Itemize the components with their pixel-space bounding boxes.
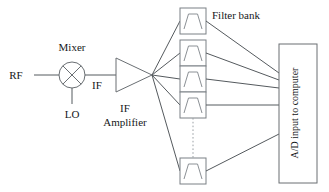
filter-block-5 — [180, 158, 206, 184]
block-diagram: RF Mixer LO IF IF Amplifier Filter bank … — [0, 0, 329, 192]
if-amplifier-triangle — [116, 58, 152, 92]
output-wire-5 — [206, 134, 279, 171]
filter-block-3 — [180, 66, 206, 92]
filter-block-4 — [180, 92, 206, 118]
if-label: IF — [92, 79, 102, 91]
filter-box-2 — [180, 40, 206, 66]
filter-block-1 — [180, 8, 206, 34]
fanout-wire-3 — [152, 75, 180, 79]
filter-bank-label: Filter bank — [212, 9, 260, 21]
mixer-symbol — [59, 62, 85, 88]
filter-box-3 — [180, 66, 206, 92]
if-amplifier-label-line2: Amplifier — [103, 116, 147, 128]
filter-box-4 — [180, 92, 206, 118]
fanout-wire-1 — [152, 21, 180, 75]
fanout-wire-2 — [152, 53, 180, 75]
filter-block-2 — [180, 40, 206, 66]
lo-label: LO — [65, 108, 80, 120]
output-wire-1 — [206, 21, 279, 73]
output-wire-2 — [206, 53, 279, 80]
mixer-label: Mixer — [59, 41, 86, 53]
filter-box-5 — [180, 158, 206, 184]
if-amplifier-label-line1: IF — [120, 102, 130, 114]
filter-output-wires — [206, 21, 279, 171]
amplifier-fanout-wires — [152, 21, 180, 171]
output-wire-3 — [206, 79, 279, 88]
rf-label: RF — [9, 69, 22, 81]
figure-canvas: RF Mixer LO IF IF Amplifier Filter bank … — [0, 0, 329, 192]
ad-input-label: A/D input to computer — [289, 67, 300, 158]
filter-box-1 — [180, 8, 206, 34]
